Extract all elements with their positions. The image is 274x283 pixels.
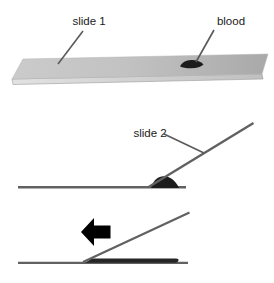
step2-spreader-touching-drop: slide 2 bbox=[18, 123, 254, 188]
slide2-leader-line bbox=[164, 134, 204, 153]
blood-smear-band bbox=[85, 259, 179, 263]
slide2-label: slide 2 bbox=[133, 127, 166, 139]
step1-slide-with-drop: slide 1 blood bbox=[12, 15, 268, 85]
slide1-label: slide 1 bbox=[72, 15, 105, 27]
blood-smear-diagram: slide 1 blood slide 2 bbox=[0, 0, 274, 283]
step3-spreading-smear bbox=[18, 213, 190, 263]
blood-label: blood bbox=[217, 15, 245, 27]
diagram-canvas: slide 1 blood slide 2 bbox=[0, 0, 274, 283]
motion-direction-arrow-icon bbox=[81, 218, 111, 246]
